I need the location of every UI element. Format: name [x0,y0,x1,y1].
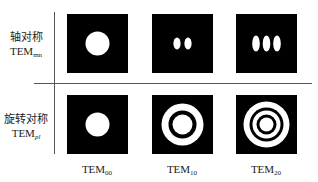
row-label-rotational-cn: 旋转对称 [0,112,52,126]
row-label-axial-cn: 轴对称 [0,30,52,44]
col-label-tem20: TEM20 [226,163,306,177]
row-label-rotational: 旋转对称 TEMpl [0,112,52,144]
panel-rotational-tem00 [67,95,128,154]
row-label-axial-tem: TEMmn [0,44,52,62]
horizontal-divider [34,83,312,84]
row-label-rotational-tem: TEMpl [0,126,52,144]
row-label-axial: 轴对称 TEMmn [0,30,52,62]
panel-axial-tem20 [236,14,297,73]
panel-rotational-tem20 [236,95,297,154]
panel-axial-tem10 [152,14,213,73]
col-label-tem00: TEM00 [57,163,137,177]
col-label-tem10: TEM10 [142,163,222,177]
panel-axial-tem00 [67,14,128,73]
panel-rotational-tem10 [152,95,213,154]
